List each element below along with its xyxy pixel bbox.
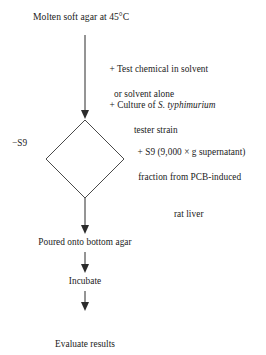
- node-start-label: Molten soft agar at 45°C: [33, 11, 129, 23]
- decision-branch-plus-s9-line1: + S9 (9,000 × g supernatant): [138, 147, 246, 157]
- decision-branch-label-plus-s9: + S9 (9,000 × g supernatant) fraction fr…: [128, 134, 245, 246]
- node-incubate-label: Incubate: [0, 275, 170, 287]
- arrow-poured-to-incubate: [81, 252, 89, 273]
- decision-branch-label-minus-s9: −S9: [12, 137, 27, 149]
- annotation-culture-line1: + Culture of S. typhimurium: [110, 100, 216, 110]
- node-evaluate-line1: Evaluate results: [0, 338, 170, 350]
- arrow-start-to-decision: [81, 35, 89, 119]
- node-evaluate-label: Evaluate results (# of revertant colonie…: [0, 313, 170, 355]
- annotation-culture-prefix: + Culture of: [110, 100, 159, 110]
- decision-branch-plus-s9-line2: fraction from PCB-induced: [128, 171, 245, 183]
- annotation-culture-species: S. typhimurium: [158, 100, 216, 110]
- arrow-decision-to-poured: [81, 198, 89, 234]
- arrow-incubate-to-evaluate: [81, 291, 89, 311]
- decision-branch-plus-s9-line3: rat liver: [128, 208, 245, 220]
- flowchart-diagram: Molten soft agar at 45°C + Test chemical…: [0, 0, 266, 355]
- annotation-test-chemical-line1: + Test chemical in solvent: [110, 64, 209, 74]
- node-poured-label: Poured onto bottom agar: [0, 236, 170, 248]
